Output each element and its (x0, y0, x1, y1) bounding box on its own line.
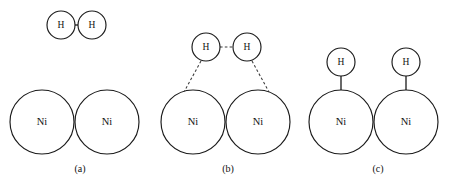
hydrogen-atom-label: H (338, 57, 345, 67)
chemistry-diagram: NiNiHH(a)NiNiHH(b)NiNiHH(c) (0, 0, 450, 187)
hydrogen-atom-label: H (203, 42, 210, 52)
dashed-bond-b-2 (184, 61, 201, 92)
panel-c: NiNiHH(c) (309, 48, 438, 175)
panel-label-a: (a) (74, 163, 85, 175)
hydrogen-atom-label: H (58, 20, 65, 30)
hydrogen-atom-label: H (89, 20, 96, 30)
nickel-atom-label: Ni (401, 116, 412, 127)
hydrogen-atom-label: H (403, 57, 410, 67)
nickel-atom-label: Ni (336, 116, 347, 127)
panel-label-b: (b) (222, 163, 234, 175)
panel-a: NiNiHH(a) (10, 11, 139, 175)
dashed-bond-b-3 (252, 61, 269, 92)
nickel-atom-label: Ni (188, 116, 199, 127)
panel-b: NiNiHH(b) (161, 33, 290, 175)
nickel-atom-label: Ni (253, 116, 264, 127)
nickel-atom-label: Ni (37, 116, 48, 127)
nickel-atom-label: Ni (102, 116, 113, 127)
hydrogen-atom-label: H (244, 42, 251, 52)
diagram-canvas: NiNiHH(a)NiNiHH(b)NiNiHH(c) (0, 0, 450, 187)
panel-label-c: (c) (372, 163, 383, 175)
